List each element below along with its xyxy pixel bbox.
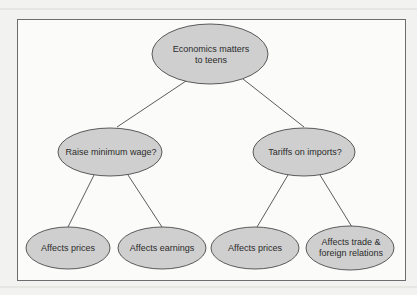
- node-tariffs-label: Tariffs on imports?: [268, 147, 341, 158]
- edge-tariffs-trade: [320, 175, 352, 227]
- edge-root-min-wage: [117, 79, 189, 127]
- node-tr-trade-label: Affects trade & foreign relations: [319, 237, 383, 259]
- node-root-label-line1: Economics matters: [173, 44, 250, 55]
- node-mw-earnings-label: Affects earnings: [130, 243, 194, 254]
- node-tr-prices-label: Affects prices: [228, 243, 282, 254]
- node-tr-trade-label-line1: Affects trade &: [319, 237, 383, 248]
- edge-tariffs-prices: [257, 175, 288, 227]
- node-root-label: Economics matters to teens: [173, 44, 250, 66]
- edge-min-wage-earnings: [128, 175, 162, 227]
- node-tr-trade-label-line2: foreign relations: [319, 248, 383, 259]
- node-root-label-line2: to teens: [173, 55, 250, 66]
- edge-min-wage-prices: [68, 175, 94, 227]
- node-mw-prices-label: Affects prices: [41, 243, 95, 254]
- edge-root-tariffs: [243, 79, 304, 127]
- node-min-wage-label: Raise minimum wage?: [65, 147, 156, 158]
